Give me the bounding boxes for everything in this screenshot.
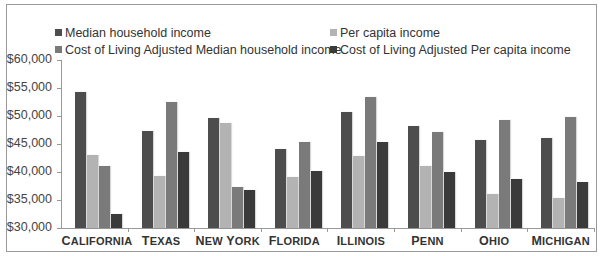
bar	[75, 92, 86, 228]
bar	[232, 187, 243, 228]
x-tick	[461, 228, 462, 232]
legend-label: Median household income	[65, 26, 211, 40]
legend-swatch-icon	[55, 29, 62, 36]
legend-label: Cost of Living Adjusted Median household…	[65, 43, 342, 57]
x-tick	[527, 228, 528, 232]
bar	[154, 176, 165, 228]
bar	[541, 138, 552, 228]
bar	[487, 194, 498, 228]
x-tick	[327, 228, 328, 232]
bar	[353, 156, 364, 228]
bar	[142, 131, 153, 228]
bar	[577, 182, 588, 228]
legend-swatch-icon	[330, 29, 337, 36]
x-category-label: ILLINOIS	[328, 234, 394, 248]
x-category-label: CALIFORNIA	[62, 234, 128, 248]
bar	[565, 117, 576, 228]
legend-label: Per capita income	[340, 26, 440, 40]
legend-item: Per capita income	[330, 26, 440, 40]
bar	[377, 142, 388, 228]
x-tick	[394, 228, 395, 232]
x-tick	[194, 228, 195, 232]
bar	[299, 142, 310, 228]
bar	[432, 132, 443, 228]
bar	[287, 177, 298, 228]
bar	[244, 190, 255, 228]
bar	[275, 149, 286, 228]
bar	[178, 152, 189, 228]
legend-swatch-icon	[55, 46, 62, 53]
x-tick	[128, 228, 129, 232]
bar	[420, 166, 431, 228]
bar	[475, 140, 486, 228]
bar	[444, 172, 455, 228]
legend-swatch-icon	[330, 46, 337, 53]
bar	[365, 97, 376, 228]
legend-item: Median household income	[55, 26, 211, 40]
y-tick-label: $50,000	[0, 108, 52, 122]
bar	[511, 179, 522, 228]
y-tick-label: $60,000	[0, 52, 52, 66]
legend-item: Cost of Living Adjusted Per capita incom…	[330, 43, 571, 57]
x-category-label: TEXAS	[128, 234, 194, 248]
x-category-label: FLORIDA	[261, 234, 327, 248]
y-tick-label: $35,000	[0, 192, 52, 206]
x-category-label: NEW YORK	[195, 234, 261, 248]
bar	[553, 198, 564, 228]
bar	[408, 126, 419, 228]
y-tick-label: $40,000	[0, 164, 52, 178]
bar	[208, 118, 219, 228]
x-category-label: MICHIGAN	[528, 234, 594, 248]
bar	[99, 166, 110, 228]
x-tick	[594, 228, 595, 232]
y-tick-label: $55,000	[0, 80, 52, 94]
y-tick-label: $45,000	[0, 136, 52, 150]
legend-item: Cost of Living Adjusted Median household…	[55, 43, 342, 57]
x-category-label: PENN	[395, 234, 461, 248]
bar	[87, 155, 98, 228]
bar	[499, 120, 510, 228]
bar	[341, 112, 352, 228]
bar	[166, 102, 177, 228]
legend-label: Cost of Living Adjusted Per capita incom…	[340, 43, 571, 57]
y-tick-label: $30,000	[0, 220, 52, 234]
x-tick	[261, 228, 262, 232]
x-category-label: OHIO	[461, 234, 527, 248]
bar	[111, 214, 122, 228]
bar	[220, 123, 231, 228]
y-axis-line	[61, 60, 62, 228]
bar	[311, 171, 322, 228]
